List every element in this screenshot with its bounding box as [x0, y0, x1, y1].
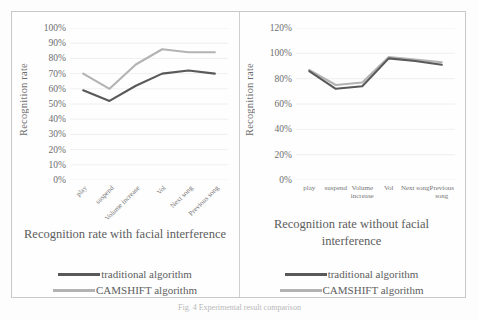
y-tick-label: 50%: [49, 99, 66, 109]
y-axis-ticks-right: 0%20%40%60%80%100%120%: [258, 28, 294, 180]
legend-swatch-line-icon: [53, 289, 95, 292]
y-tick-label: 80%: [49, 53, 66, 63]
y-tick-label: 30%: [49, 129, 66, 139]
x-tick-label: Previous song: [425, 184, 459, 200]
legend-label-traditional: traditional algorithm: [328, 268, 419, 280]
series-line: [83, 49, 215, 89]
y-axis-title-left: Recognition rate: [18, 30, 32, 170]
y-tick-label: 120%: [270, 23, 292, 33]
chart-area-left: Recognition rate 0%10%20%30%40%50%60%70%…: [12, 12, 238, 208]
y-tick-label: 0%: [53, 175, 66, 185]
plot-region-right: [296, 28, 455, 180]
y-tick-label: 80%: [275, 74, 292, 84]
y-tick-label: 90%: [49, 38, 66, 48]
y-axis-title-right: Recognition rate: [244, 30, 258, 170]
x-tick-label: Next song: [168, 184, 194, 210]
figure-container: Recognition rate 0%10%20%30%40%50%60%70%…: [11, 11, 466, 298]
chart-title-left: Recognition rate with facial interferenc…: [24, 226, 226, 243]
legend-label-camshift: CAMSHIFT algorithm: [323, 284, 424, 296]
legend-swatch-line-icon: [58, 273, 100, 276]
legend-item-camshift-left: CAMSHIFT algorithm: [12, 284, 238, 296]
y-tick-label: 10%: [49, 160, 66, 170]
y-tick-label: 20%: [49, 145, 66, 155]
x-tick-label: Vol: [155, 184, 167, 196]
x-axis-ticks-left: playsuspendVolume increaseVolNext songPr…: [70, 182, 228, 228]
y-tick-label: 0%: [279, 175, 292, 185]
y-tick-label: 60%: [49, 84, 66, 94]
y-tick-label: 100%: [44, 23, 66, 33]
x-tick-label: play: [75, 184, 89, 198]
series-line: [309, 58, 442, 88]
legend-left: traditional algorithm CAMSHIFT algorithm: [12, 268, 238, 300]
y-tick-label: 20%: [275, 150, 292, 160]
plot-region-left: [70, 28, 228, 180]
chart-title-right: Recognition rate without facial interfer…: [250, 216, 453, 249]
legend-item-camshift-right: CAMSHIFT algorithm: [238, 284, 465, 296]
y-tick-label: 100%: [270, 48, 292, 58]
y-axis-ticks-left: 0%10%20%30%40%50%60%70%80%90%100%: [32, 28, 68, 180]
legend-right: traditional algorithm CAMSHIFT algorithm: [238, 268, 465, 300]
line-chart-svg-left: [70, 28, 228, 180]
figure-caption: Fig. 4 Experimental result comparison: [0, 303, 479, 314]
legend-swatch-line-icon: [285, 273, 327, 276]
legend-swatch-line-icon: [280, 289, 322, 292]
y-tick-label: 70%: [49, 69, 66, 79]
y-tick-label: 40%: [275, 124, 292, 134]
legend-label-camshift: CAMSHIFT algorithm: [96, 284, 197, 296]
chart-panel-without-interference: Recognition rate 0%20%40%60%80%100%120% …: [238, 12, 465, 297]
legend-label-traditional: traditional algorithm: [101, 268, 192, 280]
x-tick-label: suspend: [94, 184, 116, 206]
y-tick-label: 60%: [275, 99, 292, 109]
legend-item-traditional-right: traditional algorithm: [238, 268, 465, 280]
chart-area-right: Recognition rate 0%20%40%60%80%100%120% …: [238, 12, 465, 208]
line-chart-svg-right: [296, 28, 455, 180]
chart-panel-with-interference: Recognition rate 0%10%20%30%40%50%60%70%…: [12, 12, 238, 297]
y-tick-label: 40%: [49, 114, 66, 124]
legend-item-traditional-left: traditional algorithm: [12, 268, 238, 280]
